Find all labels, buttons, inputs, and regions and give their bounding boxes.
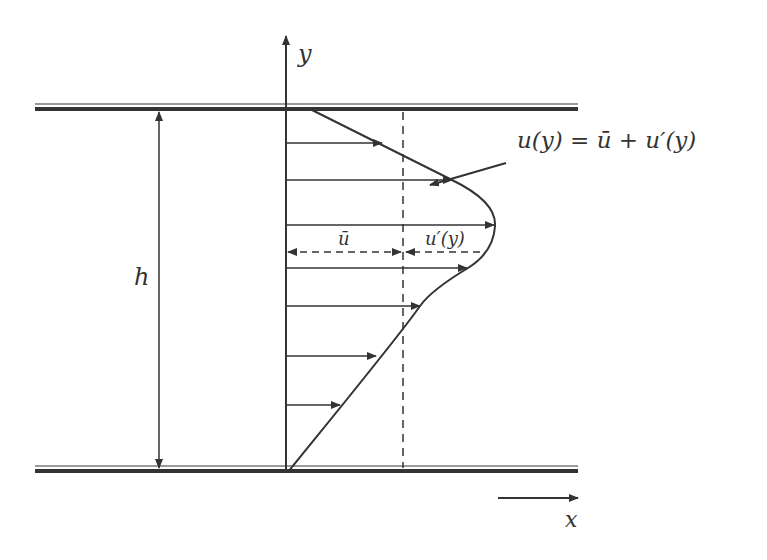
mean-velocity-label: ū (338, 228, 350, 249)
y-axis-label: y (297, 40, 312, 68)
velocity-arrows (287, 143, 494, 405)
channel-flow-diagram: y h ū u′(y) u(y) = ū + u′(y) x (0, 0, 767, 560)
profile-equation: u(y) = ū + u′(y) (517, 127, 696, 153)
height-label: h (134, 263, 149, 291)
top-wall (35, 104, 578, 109)
x-axis-label: x (565, 507, 578, 532)
bottom-wall (35, 466, 578, 471)
fluctuation-label: u′(y) (425, 228, 465, 249)
velocity-profile-curve (288, 110, 495, 472)
